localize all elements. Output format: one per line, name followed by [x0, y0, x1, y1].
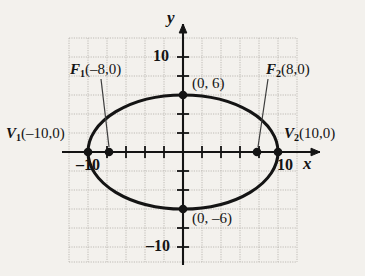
label-vertex-v2: V2(10,0) — [284, 126, 335, 143]
tick-label-x-negative-10: –10 — [76, 157, 100, 173]
point-covertex-top — [179, 91, 188, 100]
label-focus-f1: F1(–8,0) — [70, 62, 121, 79]
label-covertex-top: (0, 6) — [192, 76, 225, 91]
label-covertex-bottom: (0, –6) — [192, 211, 232, 226]
point-f2 — [253, 148, 262, 157]
x-axis-arrowhead — [311, 148, 320, 156]
tick-label-y-negative-10: –10 — [146, 238, 170, 254]
y-axis-arrowhead — [179, 24, 187, 33]
tick-label-x-positive-10: 10 — [277, 157, 293, 173]
axis-label-y: y — [167, 9, 175, 26]
point-f1 — [105, 148, 114, 157]
point-v2 — [274, 148, 283, 157]
tick-label-y-positive-10: 10 — [153, 48, 169, 64]
axis-label-x: x — [303, 155, 312, 172]
label-vertex-v1: V1(–10,0) — [6, 126, 65, 143]
leader-f2 — [258, 79, 268, 147]
label-focus-f2: F2(8,0) — [266, 62, 310, 79]
point-v1 — [84, 148, 93, 157]
point-covertex-bottom — [179, 205, 188, 214]
leader-f1 — [101, 79, 109, 147]
